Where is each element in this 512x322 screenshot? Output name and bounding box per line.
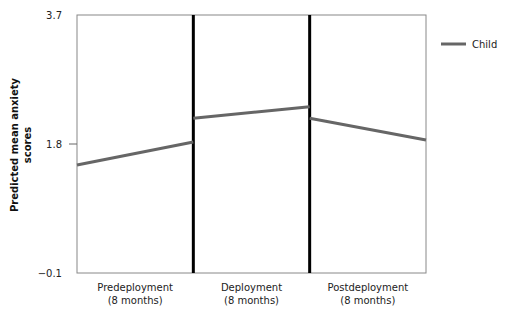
series-segment-child (77, 142, 193, 165)
x-category-label: Postdeployment (327, 282, 408, 293)
series-segment-child (310, 118, 426, 140)
y-axis-label-line2: scores (22, 127, 33, 163)
y-tick-label: 1.8 (46, 139, 62, 150)
legend-label: Child (472, 39, 497, 50)
x-category-label: Deployment (221, 282, 282, 293)
series-segment-child (193, 107, 309, 119)
y-tick-label: 3.7 (46, 10, 62, 21)
x-category-label: (8 months) (340, 295, 395, 306)
y-axis-label: Predicted mean anxiety (9, 77, 20, 212)
plot-border (77, 15, 426, 273)
x-category-label: (8 months) (224, 295, 279, 306)
legend: Child (441, 39, 497, 50)
x-category-label: (8 months) (108, 295, 163, 306)
anxiety-chart: −0.11.83.7 Predeployment(8 months)Deploy… (0, 0, 512, 322)
y-tick-label: −0.1 (38, 268, 62, 279)
x-category-label: Predeployment (97, 282, 173, 293)
